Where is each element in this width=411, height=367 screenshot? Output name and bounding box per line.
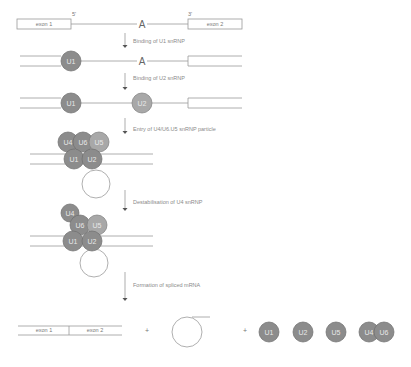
exon-2-label: exon 2 bbox=[87, 327, 104, 333]
lariat-product bbox=[172, 317, 210, 347]
svg-text:U5: U5 bbox=[93, 222, 102, 229]
svg-text:U1: U1 bbox=[67, 58, 76, 65]
svg-text:U2: U2 bbox=[88, 156, 97, 163]
arrow-down-icon bbox=[123, 131, 128, 134]
exon-1-label: exon 1 bbox=[36, 327, 53, 333]
pre-mrna: exon 1 5' A 3' exon 2 bbox=[17, 11, 242, 30]
svg-text:U1: U1 bbox=[265, 329, 274, 336]
step-arrow-4: Destabilisation of U4 snRNP bbox=[123, 190, 203, 211]
arrow-down-icon bbox=[123, 87, 128, 90]
spliceosome-assembly: U4 U6 U5 U1 U2 bbox=[30, 132, 153, 198]
step-arrow-2: Binding of U2 snRNP bbox=[123, 73, 186, 90]
svg-text:U1: U1 bbox=[67, 100, 76, 107]
branch-point-label: A bbox=[139, 19, 146, 30]
intron-loop bbox=[82, 170, 110, 198]
three-prime-label: 3' bbox=[188, 11, 192, 17]
u2-binding-row: U1 U2 bbox=[20, 93, 242, 113]
exon-1-label: exon 1 bbox=[36, 21, 53, 27]
svg-text:U6: U6 bbox=[79, 139, 88, 146]
step-arrow-3: Entry of U4/U6.U5 snRNP particle bbox=[123, 118, 216, 134]
spliced-mrna: exon 1 exon 2 bbox=[18, 326, 122, 335]
u1-binding-row: A U1 bbox=[20, 51, 242, 71]
five-prime-label: 5' bbox=[72, 11, 76, 17]
arrow-down-icon bbox=[123, 208, 128, 211]
svg-text:U6: U6 bbox=[380, 329, 389, 336]
step-label: Destabilisation of U4 snRNP bbox=[133, 199, 203, 205]
svg-text:U1: U1 bbox=[70, 156, 79, 163]
svg-text:U4: U4 bbox=[66, 210, 75, 217]
svg-text:U5: U5 bbox=[95, 139, 104, 146]
exon-2-label: exon 2 bbox=[207, 21, 224, 27]
svg-text:U5: U5 bbox=[332, 329, 341, 336]
plus-sign: + bbox=[243, 327, 247, 334]
splicing-diagram: exon 1 5' A 3' exon 2 Binding of U1 snRN… bbox=[0, 0, 411, 367]
step-label: Formation of spliced mRNA bbox=[133, 282, 201, 288]
svg-text:U1: U1 bbox=[69, 238, 78, 245]
step-arrow-5: Formation of spliced mRNA bbox=[123, 272, 201, 301]
step-label: Binding of U1 snRNP bbox=[133, 38, 185, 44]
step-arrow-1: Binding of U1 snRNP bbox=[123, 33, 186, 48]
svg-text:U4: U4 bbox=[365, 329, 374, 336]
svg-text:A: A bbox=[139, 56, 146, 67]
svg-text:U2: U2 bbox=[88, 238, 97, 245]
svg-text:U4: U4 bbox=[64, 139, 73, 146]
plus-sign: + bbox=[145, 327, 149, 334]
svg-text:U2: U2 bbox=[299, 329, 308, 336]
lariat-intron bbox=[172, 317, 202, 347]
svg-text:U2: U2 bbox=[138, 100, 147, 107]
intron-loop bbox=[80, 249, 108, 277]
arrow-down-icon bbox=[123, 45, 128, 48]
released-snrnps: U1 U2 U5 U4 U6 bbox=[259, 322, 394, 342]
svg-text:U6: U6 bbox=[76, 222, 85, 229]
step-label: Binding of U2 snRNP bbox=[133, 75, 185, 81]
u4-destabilisation: U4 U6 U5 U1 U2 bbox=[30, 204, 153, 277]
arrow-down-icon bbox=[123, 298, 128, 301]
step-label: Entry of U4/U6.U5 snRNP particle bbox=[133, 126, 216, 132]
